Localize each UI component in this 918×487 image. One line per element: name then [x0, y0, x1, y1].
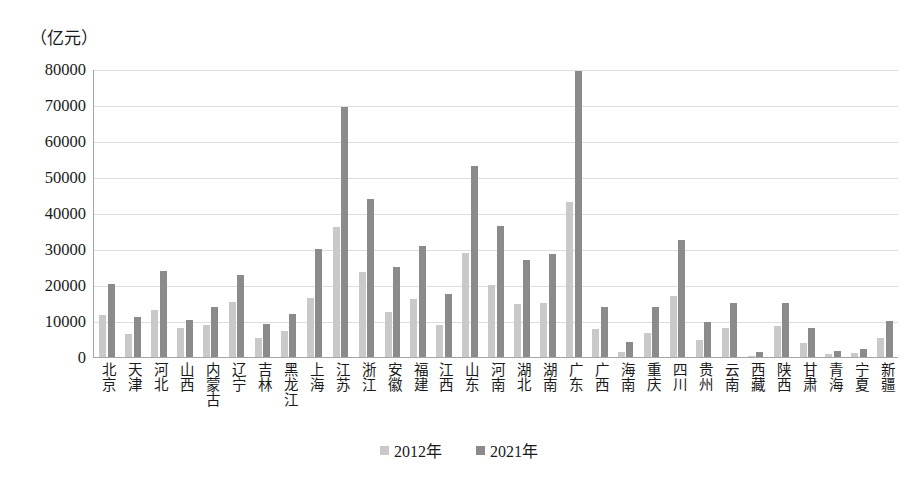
- x-axis-tick-label-cell: 海南: [613, 362, 639, 440]
- bar[interactable]: [678, 240, 685, 357]
- bar[interactable]: [237, 275, 244, 357]
- bar-group: [846, 70, 872, 357]
- x-axis-tick-label: 宁夏: [853, 362, 868, 392]
- bar[interactable]: [834, 351, 841, 358]
- bar[interactable]: [307, 298, 314, 357]
- bar[interactable]: [497, 226, 504, 357]
- legend-item[interactable]: 2021年: [476, 438, 538, 462]
- bar[interactable]: [289, 314, 296, 357]
- bar-group: [509, 70, 535, 357]
- x-axis-tick-label: 黑龙江: [281, 362, 296, 407]
- bar-group: [561, 70, 587, 357]
- bar[interactable]: [445, 294, 452, 357]
- bar-group: [120, 70, 146, 357]
- bar[interactable]: [540, 303, 547, 357]
- bar[interactable]: [592, 329, 599, 357]
- bar[interactable]: [488, 285, 495, 357]
- bar[interactable]: [281, 331, 288, 357]
- bar[interactable]: [730, 303, 737, 357]
- bar[interactable]: [748, 356, 755, 357]
- x-axis-line: [93, 357, 898, 358]
- bar[interactable]: [851, 353, 858, 357]
- bar[interactable]: [359, 272, 366, 357]
- bar-group: [535, 70, 561, 357]
- bar-group: [172, 70, 198, 357]
- bar[interactable]: [782, 303, 789, 357]
- bar[interactable]: [800, 343, 807, 357]
- bar-group: [94, 70, 120, 357]
- bar[interactable]: [626, 342, 633, 358]
- x-axis-tick-label: 四川: [671, 362, 686, 392]
- bar[interactable]: [514, 304, 521, 357]
- bar-group: [794, 70, 820, 357]
- x-axis-tick-label-cell: 陕西: [769, 362, 795, 440]
- bar[interactable]: [566, 202, 573, 357]
- x-axis-tick-label: 河南: [489, 362, 504, 392]
- bar[interactable]: [808, 328, 815, 357]
- bar[interactable]: [211, 307, 218, 357]
- y-axis-tick-label: 70000: [6, 98, 86, 115]
- x-axis-tick-label: 山东: [463, 362, 478, 392]
- bar[interactable]: [722, 328, 729, 357]
- bar[interactable]: [825, 354, 832, 357]
- bar[interactable]: [652, 307, 659, 357]
- bar[interactable]: [160, 271, 167, 357]
- bar[interactable]: [644, 333, 651, 358]
- bar[interactable]: [471, 166, 478, 357]
- bar[interactable]: [704, 322, 711, 357]
- bar[interactable]: [618, 352, 625, 357]
- x-axis-tick-label-cell: 天津: [120, 362, 146, 440]
- bar[interactable]: [393, 267, 400, 357]
- bar[interactable]: [315, 249, 322, 357]
- bar[interactable]: [523, 260, 530, 357]
- x-axis-tick-label-cell: 云南: [717, 362, 743, 440]
- bar-chart: （亿元） 80000700006000050000400003000020000…: [0, 0, 918, 487]
- bar[interactable]: [886, 321, 893, 357]
- x-axis-tick-label: 甘肃: [801, 362, 816, 392]
- bar[interactable]: [341, 107, 348, 357]
- bar[interactable]: [774, 326, 781, 357]
- bar[interactable]: [860, 349, 867, 357]
- bar[interactable]: [99, 315, 106, 358]
- bar-groups: [94, 70, 898, 357]
- bar[interactable]: [151, 310, 158, 358]
- bar[interactable]: [436, 325, 443, 357]
- bar[interactable]: [263, 324, 270, 358]
- bar[interactable]: [255, 338, 262, 357]
- x-axis-tick-label-cell: 辽宁: [224, 362, 250, 440]
- bar-group: [665, 70, 691, 357]
- bar[interactable]: [229, 302, 236, 357]
- bar[interactable]: [108, 284, 115, 357]
- bar-group: [587, 70, 613, 357]
- bar[interactable]: [877, 338, 884, 357]
- x-axis-tick-label: 新疆: [879, 362, 894, 392]
- bar[interactable]: [549, 254, 556, 357]
- bar[interactable]: [410, 299, 417, 357]
- bar[interactable]: [462, 253, 469, 357]
- bar[interactable]: [203, 325, 210, 357]
- x-axis-tick-label-cell: 广西: [587, 362, 613, 440]
- bar[interactable]: [385, 312, 392, 357]
- bar[interactable]: [601, 307, 608, 357]
- bar[interactable]: [186, 320, 193, 357]
- x-axis-tick-label: 江苏: [333, 362, 348, 392]
- y-axis-tick-label: 60000: [6, 134, 86, 151]
- bar[interactable]: [125, 334, 132, 357]
- bar[interactable]: [419, 246, 426, 357]
- bar-group: [146, 70, 172, 357]
- bar[interactable]: [367, 199, 374, 357]
- legend-item[interactable]: 2012年: [380, 438, 442, 462]
- y-axis-tick-label: 50000: [6, 170, 86, 187]
- bar[interactable]: [756, 352, 763, 357]
- bar[interactable]: [134, 317, 141, 357]
- bar[interactable]: [177, 328, 184, 357]
- bar[interactable]: [575, 71, 582, 357]
- bar[interactable]: [696, 340, 703, 357]
- x-axis-tick-label: 云南: [723, 362, 738, 392]
- bar-group: [613, 70, 639, 357]
- x-axis-tick-label-cell: 吉林: [250, 362, 276, 440]
- bar[interactable]: [670, 296, 677, 357]
- y-axis-tick-label: 30000: [6, 242, 86, 259]
- bar[interactable]: [333, 227, 340, 357]
- bar-group: [639, 70, 665, 357]
